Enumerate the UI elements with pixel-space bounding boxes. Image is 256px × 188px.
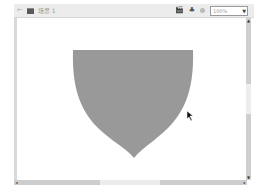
scene-nav: ← 场景 1: [17, 4, 56, 17]
scroll-right-button[interactable]: ▸: [242, 180, 247, 185]
scroll-left-button[interactable]: ◂: [14, 180, 19, 185]
view-controls: 🎬 ♣ 100% ▼: [175, 4, 248, 17]
scene-clapper-icon: [27, 8, 34, 14]
chevron-down-icon[interactable]: ▼: [242, 7, 246, 15]
edit-symbols-icon[interactable]: ♣: [189, 4, 195, 17]
scene-label[interactable]: 场景 1: [38, 4, 56, 17]
zoom-value: 100%: [211, 8, 227, 14]
edit-bar: ← 场景 1 🎬 ♣ 100% ▼: [14, 4, 254, 18]
center-stage-icon[interactable]: [200, 8, 205, 13]
stage-frame: ▲ ▼ ◂ ▸: [14, 18, 253, 186]
edit-scene-icon[interactable]: 🎬: [175, 4, 184, 17]
mouse-pointer-icon: [186, 110, 195, 122]
zoom-dropdown[interactable]: 100% ▼: [210, 6, 248, 16]
vertical-scrollbar[interactable]: ▲ ▼: [246, 18, 251, 180]
vertical-scroll-thumb[interactable]: [246, 84, 251, 114]
shield-shape[interactable]: [70, 48, 194, 160]
horizontal-scroll-thumb[interactable]: [100, 180, 160, 185]
scroll-up-button[interactable]: ▲: [246, 18, 251, 23]
back-arrow-icon[interactable]: ←: [17, 4, 23, 17]
horizontal-scrollbar[interactable]: ◂ ▸: [14, 180, 247, 185]
